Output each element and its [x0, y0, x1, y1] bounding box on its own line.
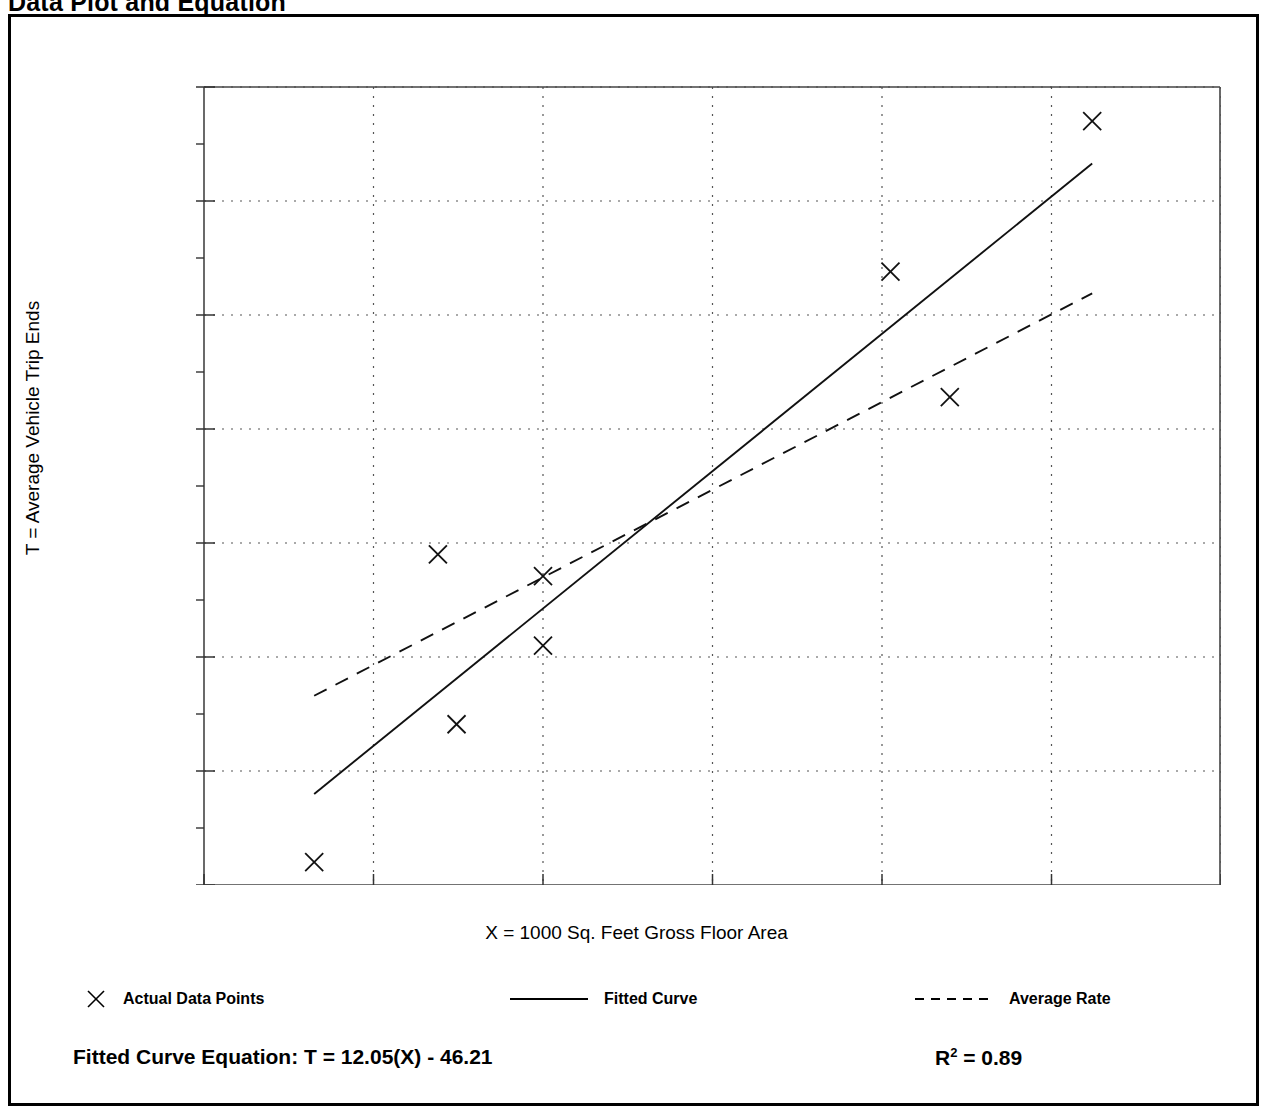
dashed-line-icon: [913, 993, 995, 1005]
data-point-marker: [881, 263, 899, 281]
data-point-marker: [429, 545, 447, 563]
plot-area: 5060708090100110120891011121314: [196, 73, 1221, 885]
y-axis-title: T = Average Vehicle Trip Ends: [22, 148, 44, 708]
r-squared-value: R2 = 0.89: [935, 1045, 1022, 1070]
legend-label-average-rate: Average Rate: [1009, 990, 1111, 1008]
r-symbol: R: [935, 1046, 950, 1069]
legend-item-actual-data-points: Actual Data Points: [83, 977, 264, 1021]
average-rate-line: [314, 293, 1092, 695]
data-point-marker: [305, 853, 323, 871]
solid-line-icon: [508, 993, 590, 1005]
fitted-curve-equation: Fitted Curve Equation: T = 12.05(X) - 46…: [73, 1045, 493, 1069]
legend-item-fitted-curve: Fitted Curve: [508, 977, 697, 1021]
fitted-curve-line: [314, 163, 1092, 793]
legend-item-average-rate: Average Rate: [913, 977, 1111, 1021]
equation-row: Fitted Curve Equation: T = 12.05(X) - 46…: [11, 1039, 1262, 1089]
x-axis-title: X = 1000 Sq. Feet Gross Floor Area: [11, 922, 1262, 944]
data-point-marker: [1083, 112, 1101, 130]
x-marker-icon: [83, 988, 109, 1010]
legend-label-actual-data-points: Actual Data Points: [123, 990, 264, 1008]
data-point-marker: [941, 388, 959, 406]
legend-label-fitted-curve: Fitted Curve: [604, 990, 697, 1008]
chart-legend: Actual Data Points Fitted Curve Average …: [11, 977, 1262, 1021]
figure-panel: T = Average Vehicle Trip Ends 5060708090…: [8, 14, 1259, 1106]
scatter-plot-svg: 5060708090100110120891011121314: [196, 73, 1221, 885]
data-series-layer: [305, 112, 1101, 871]
tick-label-layer: 5060708090100110120891011121314: [196, 77, 1221, 885]
r-value: = 0.89: [963, 1046, 1022, 1069]
axis-layer: [204, 87, 1220, 885]
data-point-marker: [448, 715, 466, 733]
r-exponent: 2: [950, 1045, 957, 1060]
grid-layer: [204, 87, 1221, 885]
data-point-marker: [534, 637, 552, 655]
